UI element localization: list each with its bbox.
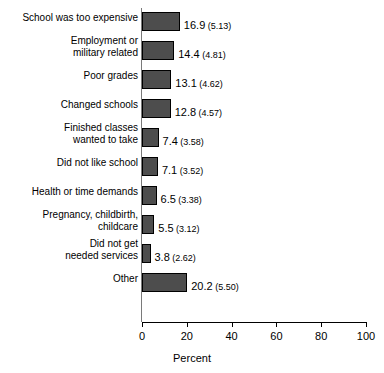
bar — [142, 273, 187, 292]
standard-error-label: (2.62) — [170, 253, 196, 263]
standard-error-label: (4.81) — [200, 50, 226, 60]
value-label-group: 6.5 (3.38) — [161, 189, 202, 207]
category-label: Other — [0, 273, 138, 285]
x-axis-tick — [276, 322, 277, 327]
value-label: 13.1 — [175, 77, 196, 89]
standard-error-label: (3.38) — [176, 195, 202, 205]
value-label: 16.9 — [184, 19, 205, 31]
y-axis-line — [141, 8, 142, 322]
standard-error-label: (3.58) — [178, 137, 204, 147]
value-label-group: 14.4 (4.81) — [178, 44, 225, 62]
x-axis-tick-label: 60 — [261, 330, 291, 342]
bar — [142, 215, 154, 234]
x-axis-line — [142, 322, 367, 323]
category-label: Finished classes wanted to take — [0, 122, 138, 145]
bar-row: School was too expensive16.9 (5.13) — [0, 7, 384, 36]
value-label: 3.8 — [155, 251, 170, 263]
x-axis-tick — [142, 322, 143, 327]
bar — [142, 128, 159, 147]
standard-error-label: (3.12) — [174, 224, 200, 234]
x-axis-title: Percent — [0, 352, 384, 364]
category-label: Poor grades — [0, 70, 138, 82]
x-axis-tick — [321, 322, 322, 327]
value-label: 12.8 — [175, 106, 196, 118]
standard-error-label: (5.13) — [205, 21, 231, 31]
value-label: 7.1 — [162, 164, 177, 176]
value-label: 6.5 — [161, 193, 176, 205]
category-label: Pregnancy, childbirth, childcare — [0, 209, 138, 232]
bar — [142, 186, 157, 205]
value-label-group: 16.9 (5.13) — [184, 15, 231, 33]
bar — [142, 99, 171, 118]
x-axis-tick-label: 40 — [217, 330, 247, 342]
value-label-group: 12.8 (4.57) — [175, 102, 222, 120]
value-label-group: 13.1 (4.62) — [175, 73, 222, 91]
category-label: Did not get needed services — [0, 238, 138, 261]
category-label: Changed schools — [0, 99, 138, 111]
standard-error-label: (4.57) — [196, 108, 222, 118]
x-axis-tick-label: 0 — [127, 330, 157, 342]
x-axis-tick-label: 80 — [306, 330, 336, 342]
category-label: School was too expensive — [0, 12, 138, 24]
bar-row: Poor grades13.1 (4.62) — [0, 65, 384, 94]
x-axis-tick-label: 20 — [172, 330, 202, 342]
value-label-group: 7.4 (3.58) — [163, 131, 204, 149]
bar — [142, 244, 151, 263]
bar-row: Other20.2 (5.50) — [0, 268, 384, 297]
category-label: Did not like school — [0, 157, 138, 169]
bar-chart: School was too expensive16.9 (5.13)Emplo… — [0, 0, 384, 373]
value-label-group: 7.1 (3.52) — [162, 160, 203, 178]
bar-row: Pregnancy, childbirth, childcare5.5 (3.1… — [0, 210, 384, 239]
plot-area: School was too expensive16.9 (5.13)Emplo… — [0, 0, 384, 373]
value-label: 7.4 — [163, 135, 178, 147]
category-label: Health or time demands — [0, 186, 138, 198]
bar-row: Health or time demands6.5 (3.38) — [0, 181, 384, 210]
bar-row: Changed schools12.8 (4.57) — [0, 94, 384, 123]
bar — [142, 157, 158, 176]
value-label: 5.5 — [158, 222, 173, 234]
value-label: 14.4 — [178, 48, 199, 60]
x-axis-tick — [187, 322, 188, 327]
value-label-group: 3.8 (2.62) — [155, 247, 196, 265]
bar — [142, 70, 171, 89]
bar-row: Did not like school7.1 (3.52) — [0, 152, 384, 181]
value-label-group: 20.2 (5.50) — [191, 276, 238, 294]
bar-row: Did not get needed services3.8 (2.62) — [0, 239, 384, 268]
bar — [142, 12, 180, 31]
category-label: Employment or military related — [0, 35, 138, 58]
x-axis-tick — [232, 322, 233, 327]
standard-error-label: (5.50) — [213, 282, 239, 292]
value-label-group: 5.5 (3.12) — [158, 218, 199, 236]
standard-error-label: (4.62) — [197, 79, 223, 89]
bar-row: Finished classes wanted to take7.4 (3.58… — [0, 123, 384, 152]
x-axis-tick-label: 100 — [351, 330, 381, 342]
standard-error-label: (3.52) — [177, 166, 203, 176]
bar-row: Employment or military related14.4 (4.81… — [0, 36, 384, 65]
bar — [142, 41, 174, 60]
value-label: 20.2 — [191, 280, 212, 292]
x-axis-tick — [366, 322, 367, 327]
